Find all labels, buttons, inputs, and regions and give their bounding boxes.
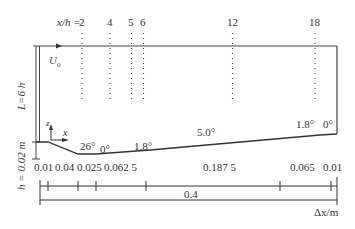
- segment-length-6: 0.065: [290, 162, 315, 173]
- inflow-arrow-icon: [56, 44, 62, 49]
- station-lines: [82, 33, 315, 99]
- station-label-2: 2: [79, 17, 85, 28]
- angle-label-0-first: 0°: [100, 144, 110, 155]
- segment-length-2: 0.04: [55, 162, 74, 173]
- step-height-label: h = 0.02 m: [16, 142, 27, 190]
- station-label-6: 6: [140, 17, 146, 28]
- inlet-velocity-symbol: U: [49, 54, 57, 66]
- station-label-5: 5: [128, 17, 134, 28]
- station-prefix-label: x/h =: [57, 17, 81, 28]
- segment-length-3: 0.025: [77, 162, 102, 173]
- angle-label-5.0: 5.0°: [197, 127, 215, 138]
- angle-label-1.8-first: 1.8°: [134, 141, 152, 152]
- domain-height-label: L=6 h: [16, 83, 27, 110]
- angle-label-0-second: 0°: [323, 119, 333, 130]
- station-label-4: 4: [107, 17, 113, 28]
- inlet-velocity-label: U0: [49, 55, 60, 69]
- angle-label-26: 26°: [80, 141, 95, 152]
- x-axis-label: x: [63, 128, 67, 138]
- segment-length-1: 0.01: [34, 162, 53, 173]
- channel-geometry-diagram: [0, 0, 355, 229]
- total-length-label: 0.4: [184, 189, 198, 200]
- station-label-12: 12: [227, 17, 238, 28]
- segment-length-5: 0.187 5: [203, 162, 236, 173]
- x-axis-arrow-icon: [62, 138, 69, 142]
- segment-length-4: 0.062 5: [104, 162, 137, 173]
- inlet-velocity-subscript: 0: [57, 61, 61, 69]
- station-label-18: 18: [309, 17, 320, 28]
- segment-length-7: 0.01: [323, 162, 342, 173]
- angle-label-1.8-second: 1.8°: [296, 119, 314, 130]
- length-axis-label: Δx/m: [314, 207, 338, 218]
- z-axis-label: z: [46, 119, 50, 128]
